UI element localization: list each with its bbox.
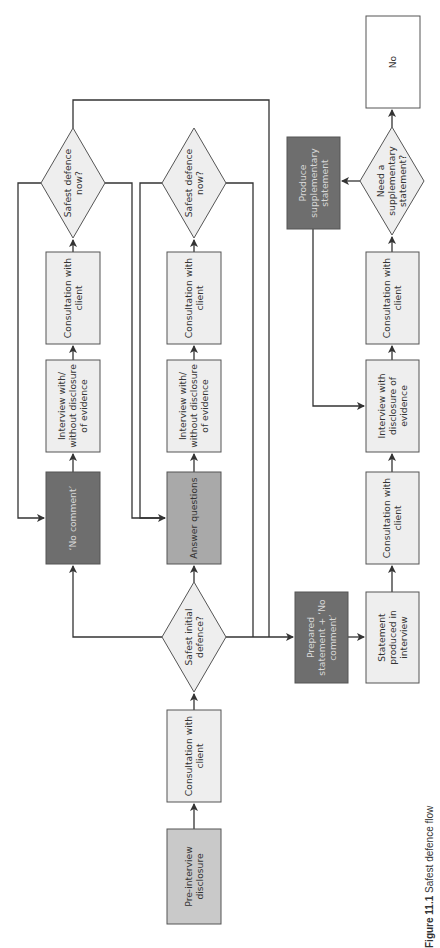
consultation-nc-box: Consultation withclient: [46, 252, 100, 344]
prepared-statement-box: Preparedstatement + ‘Nocomment’: [295, 592, 348, 683]
statement-produced-label: Statementproduced ininterview: [376, 610, 409, 665]
consultation-ps-box: Consultation withclient: [366, 472, 419, 564]
answer-questions-box: Answer questions: [167, 472, 221, 564]
consultation-ps2-box: Consultation withclient: [366, 252, 419, 344]
interview-nc-box: Interview with/without disclosureof evid…: [46, 360, 100, 452]
safest-now-aq-decision: Safest defencenow?: [162, 128, 226, 238]
caption-label: Figure 11.1: [424, 896, 435, 948]
safest-now-nc-decision: Safest defencenow?: [41, 128, 105, 238]
no-box-label: No: [387, 55, 398, 68]
nodes: Pre-interviewdisclosureConsultation with…: [41, 16, 424, 924]
interview-disclosure-box: Interview withdisclosure ofevidence: [366, 360, 419, 452]
no-box-box: No: [366, 16, 420, 108]
statement-produced-box: Statementproduced ininterview: [366, 592, 419, 683]
need-supplementary-decision: Need asupplementarystatement?: [360, 127, 424, 235]
pre-interview-disclosure-box: Pre-interviewdisclosure: [167, 829, 221, 924]
connector-safest-now-nc-to-answer-questions: [105, 183, 165, 518]
no-comment-label: ‘No comment’: [67, 485, 78, 550]
connector-safest-now-aq-to-prepared-statement: [226, 183, 253, 637]
connector-produce-supplementary-to-interview-disclosure: [313, 229, 364, 406]
consultation-aq-box: Consultation withclient: [167, 252, 221, 344]
answer-questions-label: Answer questions: [188, 477, 199, 558]
connector-safest-now-nc-to-no-comment: [18, 183, 44, 518]
figure-caption: Figure 11.1 Safest defence flow: [424, 806, 435, 948]
produce-supplementary-box: Producesupplementarystatement: [287, 137, 340, 229]
no-comment-box: ‘No comment’: [46, 472, 100, 564]
flowchart: Pre-interviewdisclosureConsultation with…: [0, 0, 440, 948]
connector-safest-initial-defence-to-no-comment: [73, 566, 162, 637]
connector-safest-now-aq-to-answer-questions: [140, 183, 165, 518]
interview-aq-box: Interview with/without disclosureof evid…: [167, 360, 221, 452]
safest-initial-defence-decision: Safest initialdefence?: [162, 582, 226, 692]
consultation-initial-box: Consultation withclient: [167, 710, 221, 802]
pre-interview-disclosure-label: Pre-interviewdisclosure: [183, 846, 205, 907]
safest-initial-defence-label: Safest initialdefence?: [183, 609, 205, 666]
caption-text: Safest defence flow: [424, 806, 435, 893]
